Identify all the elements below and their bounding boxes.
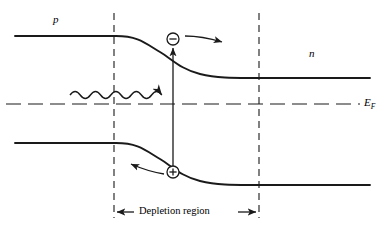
- hole-drift-arrow-line: [131, 164, 164, 174]
- n-region-label: n: [309, 48, 315, 59]
- fermi-level-symbol: E: [364, 96, 371, 108]
- fermi-level-label: EF: [364, 97, 375, 111]
- fermi-level-subscript: F: [371, 102, 376, 111]
- valence-band-curve: [15, 143, 370, 185]
- photon-wave-arrow: [70, 92, 162, 99]
- band-diagram-figure: p n EF Depletion region: [0, 0, 387, 228]
- p-region-label: p: [53, 14, 59, 25]
- band-diagram-canvas: [0, 0, 387, 228]
- electron-carrier-symbol: [167, 33, 179, 45]
- conduction-band-curve: [15, 36, 370, 78]
- depletion-region-label: Depletion region: [139, 206, 210, 217]
- electron-drift-arrow-line: [185, 36, 222, 42]
- hole-carrier-symbol: [167, 166, 179, 178]
